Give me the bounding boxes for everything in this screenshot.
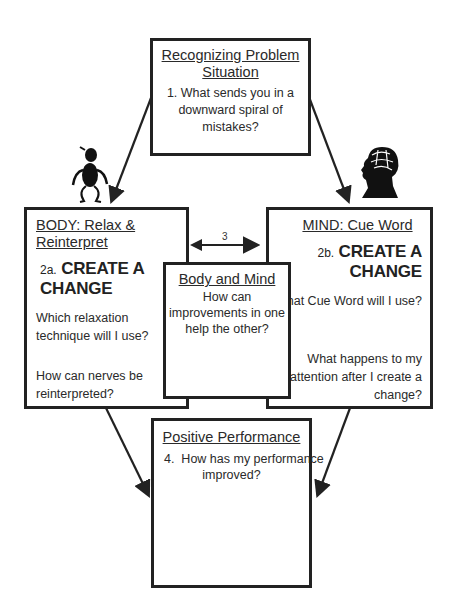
top-box-title: Recognizing Problem Situation (153, 47, 308, 81)
middle-box-title: Body and Mind (166, 271, 288, 288)
mind-box-title: MIND: Cue Word (269, 217, 422, 234)
body-and-mind-box: Body and Mind How can improvements in on… (163, 262, 291, 399)
mind-question-cue-word: What Cue Word will I use? (269, 292, 422, 310)
head-brain-icon (361, 147, 398, 198)
recognizing-problem-box: Recognizing Problem Situation 1. What se… (150, 38, 311, 156)
bottom-box-title: Positive Performance (154, 429, 309, 446)
double-arrow-label: 3 (222, 231, 228, 242)
mind-create-change: 2b. CREATE A CHANGE (269, 242, 422, 282)
mind-question-attention: What happens to my attention after I cre… (269, 350, 422, 404)
positive-performance-box: Positive Performance 4. How has my perfo… (151, 418, 312, 588)
bottom-box-question: 4. How has my performance improved? (154, 451, 309, 483)
top-box-question: 1. What sends you in a downward spiral o… (153, 85, 308, 136)
middle-box-question: How can improvements in one help the oth… (166, 289, 288, 337)
mind-box: MIND: Cue Word 2b. CREATE A CHANGE What … (266, 207, 433, 409)
stick-figure-icon (73, 147, 107, 202)
body-box-title: BODY: Relax & Reinterpret (36, 217, 186, 251)
